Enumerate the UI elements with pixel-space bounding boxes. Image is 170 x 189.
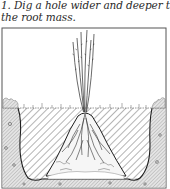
- step-caption: 1. Dig a hole wider and deeper than the …: [1, 0, 169, 23]
- caption-line-1: 1. Dig a hole wider and deeper than: [1, 0, 169, 11]
- planting-illustration: [0, 26, 170, 189]
- caption-line-2: the root mass.: [1, 11, 169, 23]
